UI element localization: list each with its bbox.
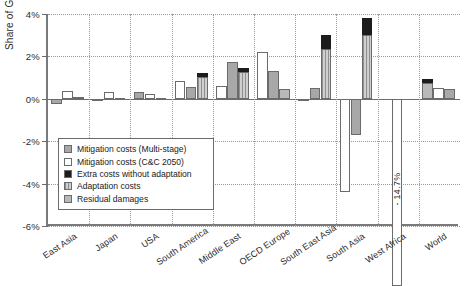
bar-mitigation-multi-stage <box>186 87 197 99</box>
x-axis-tick-label: East Asia <box>31 231 78 267</box>
bar-mitigation-multi-stage <box>92 99 103 101</box>
bar-mitigation-cc-2050 <box>175 81 186 99</box>
bar-value-annotation: - 14.7% <box>392 172 402 205</box>
bar-mitigation-multi-stage <box>310 88 321 99</box>
legend-label: Mitigation costs (C&C 2050) <box>77 157 184 167</box>
bar-mitigation-cc-2050 <box>62 91 73 98</box>
y-axis-tick <box>42 14 48 15</box>
chart-figure: Share of GDP 4%2%0%-2%-4%-6%East AsiaJap… <box>0 0 464 286</box>
y-axis-tick <box>42 226 48 227</box>
legend-item: Mitigation costs (C&C 2050) <box>64 155 208 167</box>
bar-stacked <box>197 73 208 98</box>
bar-mitigation-multi-stage <box>444 89 455 99</box>
bar-stacked <box>321 35 332 99</box>
bar-segment-extra-costs <box>362 18 373 35</box>
legend-swatch-cc <box>64 158 72 166</box>
bar-segment-residual-damages <box>422 83 433 99</box>
y-axis-tick-label: -4% <box>23 178 41 189</box>
y-axis-tick-label: 2% <box>26 51 40 62</box>
x-axis-tick-label: South America <box>155 231 202 267</box>
legend-swatch-adapt <box>64 182 72 190</box>
bar-mitigation-cc-2050 <box>257 52 268 99</box>
y-axis-tick-label: -6% <box>23 221 41 232</box>
bar-mitigation-cc-2050 <box>340 99 351 192</box>
bar-mitigation-multi-stage <box>227 62 238 99</box>
y-axis-tick <box>42 184 48 185</box>
legend-label: Extra costs without adaptation <box>77 169 192 179</box>
gridline-vertical <box>295 14 296 226</box>
legend-item: Residual damages <box>64 193 208 205</box>
bar-mitigation-multi-stage <box>268 71 279 99</box>
bar-segment-adaptation-costs <box>321 49 332 99</box>
bar-mitigation-cc-2050 <box>145 94 156 99</box>
y-axis-tick-label: 4% <box>26 9 40 20</box>
x-axis-tick-label: World <box>402 231 449 267</box>
legend-swatch-extra <box>64 170 72 178</box>
x-axis-tick-label: Japan <box>72 231 119 267</box>
bar-residual-damages <box>279 89 290 99</box>
bar-segment-extra-costs <box>321 35 332 49</box>
chart-legend: Mitigation costs (Multi-stage)Mitigation… <box>58 138 214 210</box>
legend-label: Residual damages <box>77 194 148 204</box>
bar-mitigation-multi-stage <box>351 99 362 135</box>
legend-item: Adaptation costs <box>64 180 208 192</box>
y-axis-tick-label: -2% <box>23 136 41 147</box>
bar-stacked <box>422 79 433 99</box>
legend-label: Adaptation costs <box>77 181 141 191</box>
bar-residual-damages <box>156 98 167 100</box>
legend-item: Extra costs without adaptation <box>64 168 208 180</box>
legend-swatch-resid <box>64 195 72 203</box>
legend-item: Mitigation costs (Multi-stage) <box>64 143 208 155</box>
gridline-vertical <box>419 14 420 226</box>
y-axis-tick-label: 0% <box>26 93 40 104</box>
bar-mitigation-multi-stage <box>134 92 145 98</box>
x-axis-tick-label: OECD Europe <box>237 231 284 267</box>
y-axis-label: Share of GDP <box>4 0 15 50</box>
bar-stacked <box>238 68 249 99</box>
bar-residual-damages <box>115 98 126 100</box>
bar-mitigation-cc-2050 <box>433 88 444 99</box>
bar-segment-adaptation-costs <box>362 35 373 99</box>
bar-segment-adaptation-costs <box>197 77 208 99</box>
y-axis-tick <box>42 56 48 57</box>
bar-stacked <box>362 18 373 99</box>
bar-segment-adaptation-costs <box>238 72 249 99</box>
bar-mitigation-multi-stage <box>51 99 62 104</box>
x-axis-tick-label: USA <box>114 231 161 267</box>
gridline-vertical <box>254 14 255 226</box>
bar-mitigation-cc-2050 <box>298 99 309 101</box>
legend-label: Mitigation costs (Multi-stage) <box>77 144 186 154</box>
legend-swatch-mitms <box>64 145 72 153</box>
y-axis-tick <box>42 141 48 142</box>
bar-mitigation-cc-2050 <box>104 92 115 98</box>
gridline-vertical <box>378 14 379 226</box>
bar-mitigation-cc-2050 <box>216 86 227 99</box>
bar-residual-damages <box>73 97 84 99</box>
gridline-vertical <box>336 14 337 226</box>
